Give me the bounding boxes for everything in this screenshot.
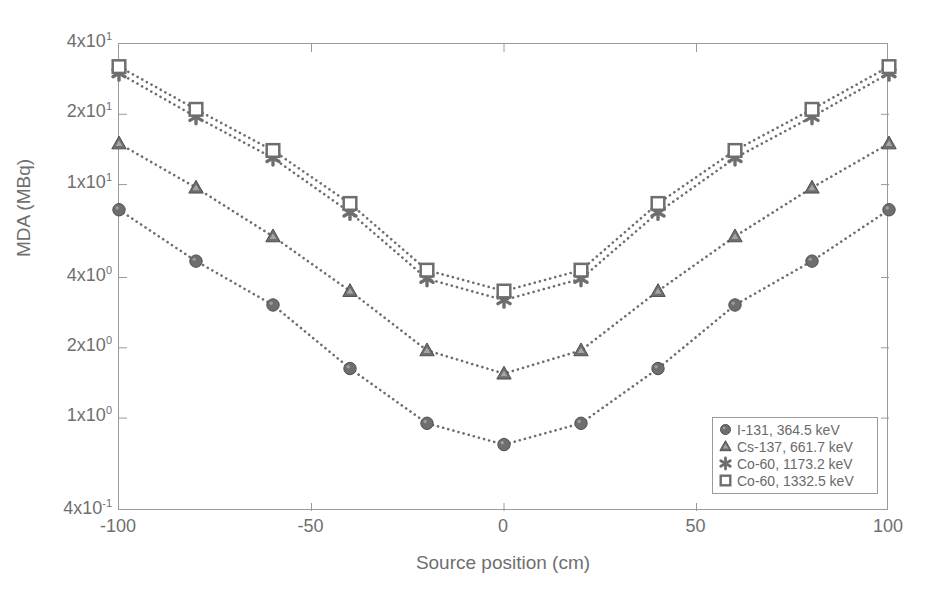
data-point	[805, 180, 819, 193]
y-tick-label: 1x100	[12, 404, 112, 426]
data-point	[729, 299, 741, 311]
data-point	[728, 229, 742, 242]
x-tick-label: -50	[271, 516, 351, 537]
legend-item: Co-60, 1332.5 keV	[718, 472, 873, 489]
data-point	[651, 284, 665, 297]
filled-circle-icon	[718, 422, 733, 437]
legend-item: Cs-137, 661.7 keV	[718, 438, 873, 455]
data-point	[190, 103, 203, 116]
legend-label: Co-60, 1332.5 keV	[737, 473, 854, 489]
data-point	[113, 204, 125, 216]
data-point	[267, 299, 279, 311]
data-point	[266, 229, 280, 242]
data-point	[652, 197, 665, 210]
y-tick-label: 2x100	[12, 334, 112, 356]
figure: MDA (MBq) Source position (cm) 4x1012x10…	[0, 0, 928, 590]
legend-label: Cs-137, 661.7 keV	[737, 439, 853, 455]
x-tick-label: 50	[656, 516, 736, 537]
data-point	[189, 180, 203, 193]
data-point	[344, 362, 356, 374]
data-point	[113, 60, 126, 73]
data-point	[498, 438, 510, 450]
legend: I-131, 364.5 keVCs-137, 661.7 keVCo-60, …	[712, 417, 878, 494]
data-point	[806, 255, 818, 267]
x-tick-label: 100	[848, 516, 928, 537]
data-point	[343, 284, 357, 297]
legend-label: Co-60, 1173.2 keV	[737, 456, 853, 472]
data-point	[421, 417, 433, 429]
data-point	[574, 343, 588, 356]
asterisk-icon	[718, 456, 733, 471]
x-tick-label: 0	[463, 516, 543, 537]
x-axis-label: Source position (cm)	[118, 552, 888, 574]
open-square-icon	[718, 473, 733, 488]
data-point	[498, 285, 511, 298]
x-tick-label: -100	[78, 516, 158, 537]
legend-label: I-131, 364.5 keV	[737, 422, 840, 438]
data-point	[420, 343, 434, 356]
legend-item: I-131, 364.5 keV	[718, 421, 873, 438]
y-tick-label: 4x101	[12, 30, 112, 52]
data-point	[267, 144, 280, 157]
data-point	[190, 255, 202, 267]
data-point	[883, 204, 895, 216]
data-point	[575, 417, 587, 429]
data-point	[729, 144, 742, 157]
y-tick-label: 2x101	[12, 100, 112, 122]
data-point	[883, 60, 896, 73]
data-point	[575, 264, 588, 277]
data-point	[421, 264, 434, 277]
data-point	[806, 103, 819, 116]
legend-item: Co-60, 1173.2 keV	[718, 455, 873, 472]
data-point	[652, 362, 664, 374]
y-tick-label: 1x101	[12, 171, 112, 193]
data-point	[882, 136, 896, 149]
data-point	[112, 136, 126, 149]
filled-triangle-icon	[718, 439, 733, 454]
data-point	[344, 197, 357, 210]
y-tick-label: 4x100	[12, 264, 112, 286]
